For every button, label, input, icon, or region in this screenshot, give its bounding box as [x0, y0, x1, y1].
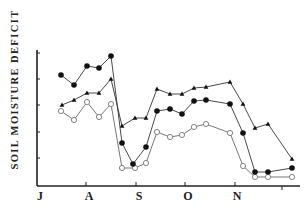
x-tick-label-j: J [37, 189, 43, 204]
open-circle-marker-icon [154, 129, 159, 134]
open-circle-marker-icon [143, 160, 148, 165]
series-triangles [60, 76, 295, 160]
triangle-marker-icon [228, 79, 233, 83]
open-circle-marker-icon [240, 163, 245, 168]
series-line [61, 56, 292, 172]
open-circle-marker-icon [179, 132, 184, 137]
filled-circle-marker-icon [58, 72, 64, 78]
filled-circle-marker-icon [252, 169, 258, 175]
series-line [62, 79, 292, 159]
series-line [61, 102, 292, 177]
open-circle-marker-icon [84, 99, 89, 104]
open-circle-marker-icon [119, 165, 124, 170]
series-filled-circles [58, 53, 295, 175]
open-circle-marker-icon [167, 134, 172, 139]
filled-circle-marker-icon [154, 108, 160, 114]
filled-circle-marker-icon [167, 106, 173, 112]
open-circle-marker-icon [58, 108, 63, 113]
filled-circle-marker-icon [227, 101, 233, 107]
line-chart [0, 0, 308, 206]
open-circle-marker-icon [191, 124, 196, 129]
series-layer [58, 53, 295, 179]
triangle-marker-icon [241, 101, 246, 105]
x-tick-label-a: A [85, 189, 94, 204]
open-circle-marker-icon [71, 117, 76, 122]
filled-circle-marker-icon [179, 111, 185, 117]
triangle-marker-icon [266, 121, 271, 125]
x-tick-label-n: N [233, 189, 242, 204]
open-circle-marker-icon [252, 174, 257, 179]
filled-circle-marker-icon [96, 65, 102, 71]
open-circle-marker-icon [227, 130, 232, 135]
open-circle-marker-icon [289, 174, 294, 179]
x-tick-label-s: S [136, 189, 143, 204]
filled-circle-marker-icon [84, 63, 90, 69]
open-circle-marker-icon [265, 174, 270, 179]
filled-circle-marker-icon [143, 144, 149, 150]
filled-circle-marker-icon [265, 169, 271, 175]
open-circle-marker-icon [108, 101, 113, 106]
filled-circle-marker-icon [191, 98, 197, 104]
x-tick-label-o: O [183, 189, 192, 204]
triangle-marker-icon [155, 86, 160, 90]
open-circle-marker-icon [96, 114, 101, 119]
triangle-marker-icon [109, 76, 114, 80]
filled-circle-marker-icon [108, 53, 114, 59]
open-circle-marker-icon [203, 121, 208, 126]
filled-circle-marker-icon [119, 140, 125, 146]
filled-circle-marker-icon [71, 82, 77, 88]
filled-circle-marker-icon [289, 165, 295, 171]
filled-circle-marker-icon [240, 130, 246, 136]
filled-circle-marker-icon [203, 97, 209, 103]
filled-circle-marker-icon [130, 161, 136, 167]
